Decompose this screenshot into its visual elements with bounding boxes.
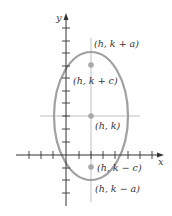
y-axis-arrow-icon (64, 13, 69, 20)
center-label: (h, k) (95, 120, 121, 131)
focus-top-label: (h, k + c) (73, 75, 118, 86)
focus-bottom-label: (h, k − c) (97, 162, 142, 173)
x-axis-label: x (158, 156, 164, 167)
ellipse-diagram: x y (h, k + a) (h, k + c) (h, k) (h, k −… (0, 0, 172, 216)
center-point (88, 113, 94, 119)
vertex-top-label: (h, k + a) (94, 38, 139, 49)
vertex-bottom-label: (h, k − a) (95, 183, 140, 194)
y-axis: y (55, 12, 70, 206)
focus-bottom-point (88, 164, 94, 170)
y-axis-label: y (55, 12, 62, 23)
focus-top-point (88, 62, 94, 68)
